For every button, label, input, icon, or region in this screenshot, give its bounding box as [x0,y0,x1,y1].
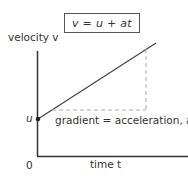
intercept-point [36,117,41,122]
velocity-time-graph [0,0,188,181]
velocity-line [38,43,156,119]
